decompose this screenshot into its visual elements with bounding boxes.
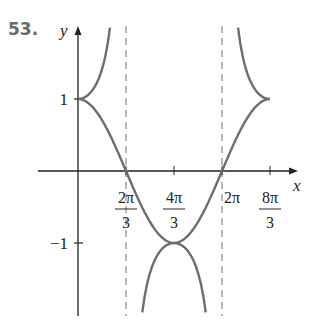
y-tick-label: −1 <box>50 234 68 253</box>
secant-branch-middle <box>142 243 205 312</box>
x-tick-label: 2π <box>224 189 240 206</box>
x-tick-label: 2π <box>118 189 134 206</box>
y-tick-label: 1 <box>60 90 69 109</box>
secant-branch-right <box>238 28 270 99</box>
x-tick-label: 3 <box>122 214 130 231</box>
x-tick-label: 4π <box>166 189 182 206</box>
x-tick-label: 3 <box>266 214 274 231</box>
y-axis-label: y <box>58 21 68 40</box>
x-axis-arrow-icon <box>289 168 298 175</box>
chart: xy2π34π32π8π31−1 <box>0 0 309 326</box>
x-tick-label: 8π <box>262 189 278 206</box>
secant-branch-left <box>78 28 110 99</box>
x-tick-label: 3 <box>170 214 178 231</box>
x-axis-label: x <box>292 176 301 195</box>
y-axis-arrow-icon <box>75 26 82 35</box>
